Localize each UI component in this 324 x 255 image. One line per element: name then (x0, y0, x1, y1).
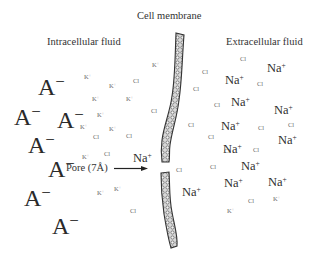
intracellular-potassium-ion: K+ (97, 190, 104, 197)
extracellular-sodium-ion: Na+ (241, 160, 260, 173)
extracellular-chloride-ion: Cl (240, 56, 246, 63)
extracellular-sodium-ion: Na+ (221, 120, 240, 133)
extracellular-sodium-ion: Na+ (274, 104, 293, 117)
extracellular-sodium-ion: Na+ (224, 177, 243, 190)
intracellular-label: Intracellular fluid (47, 37, 121, 48)
membrane-upper-segment (161, 33, 184, 162)
intracellular-sodium-ion: Na+ (133, 152, 152, 165)
extracellular-sodium-ion: Na+ (268, 176, 287, 189)
membrane-lower-segment (161, 172, 177, 248)
intracellular-chloride-ion: Cl (130, 208, 136, 215)
intracellular-potassium-ion: K+ (92, 96, 99, 103)
extracellular-sodium-ion: Na+ (267, 62, 286, 75)
intracellular-potassium-ion: K+ (109, 83, 116, 90)
extracellular-chloride-ion: Cl (188, 122, 194, 129)
extracellular-sodium-ion: Na+ (231, 96, 250, 109)
intracellular-chloride-ion: Cl (93, 134, 99, 141)
intracellular-anion-ion: A− (38, 75, 65, 99)
arrow-head-icon (141, 166, 148, 171)
intracellular-anion-ion: A− (52, 214, 79, 238)
intracellular-potassium-ion: K+ (126, 96, 133, 103)
intracellular-chloride-ion: Cl (133, 78, 139, 85)
intracellular-anion-ion: A− (24, 186, 51, 210)
extracellular-chloride-ion: Cl (214, 102, 220, 109)
intracellular-potassium-ion: K+ (109, 126, 116, 133)
extracellular-potassium-ion: K+ (227, 208, 234, 215)
extracellular-chloride-ion: Cl (202, 69, 208, 76)
extracellular-chloride-ion: Cl (210, 164, 216, 171)
intracellular-potassium-ion: K+ (152, 62, 159, 69)
intracellular-anion-ion: A− (48, 157, 75, 181)
intracellular-potassium-ion: K+ (80, 124, 87, 131)
extracellular-sodium-ion: Na+ (278, 134, 297, 147)
cell-membrane-diagram: Cell membrane Intracellular fluid Extrac… (0, 0, 324, 255)
extracellular-chloride-ion: Cl (248, 198, 254, 205)
intracellular-potassium-ion: K+ (114, 186, 121, 193)
extracellular-potassium-ion: K+ (273, 196, 280, 203)
extracellular-chloride-ion: Cl (288, 122, 294, 129)
extracellular-chloride-ion: Cl (253, 147, 259, 154)
intracellular-chloride-ion: Cl (151, 108, 157, 115)
intracellular-potassium-ion: K+ (97, 112, 104, 119)
intracellular-chloride-ion: Cl (126, 133, 132, 140)
intracellular-anion-ion: A− (14, 105, 41, 129)
extracellular-chloride-ion: Cl (208, 134, 214, 141)
intracellular-chloride-ion: Cl (104, 151, 110, 158)
extracellular-chloride-ion: Cl (258, 125, 264, 132)
intracellular-potassium-ion: K+ (82, 154, 89, 161)
extracellular-chloride-ion: Cl (257, 81, 263, 88)
extracellular-chloride-ion: Cl (176, 167, 182, 174)
extracellular-sodium-ion: Na+ (223, 143, 242, 156)
extracellular-sodium-ion: Na+ (182, 186, 201, 199)
extracellular-sodium-ion: Na+ (225, 74, 244, 87)
extracellular-label: Extracellular fluid (226, 37, 303, 48)
extracellular-chloride-ion: Cl (193, 86, 199, 93)
intracellular-anion-ion: A− (28, 133, 55, 157)
intracellular-potassium-ion: K+ (84, 74, 91, 81)
membrane-label: Cell membrane (137, 11, 201, 22)
